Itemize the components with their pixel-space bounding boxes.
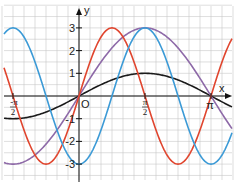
x-axis-arrow-icon [225, 93, 232, 99]
x-tick-denominator: 2 [143, 107, 148, 117]
x-tick-label: π [206, 99, 214, 111]
x-axis-label: x [219, 82, 225, 94]
y-tick-label: -1 [65, 113, 75, 125]
y-tick-label: -2 [65, 135, 75, 147]
x-tick-numerator: π [143, 97, 148, 107]
y-axis-arrow-icon [76, 8, 82, 15]
function-graph: 321-1-2-3yxO-π2π2π [0, 0, 236, 184]
y-tick-label: 1 [69, 67, 75, 79]
y-tick-label: 3 [69, 22, 75, 34]
origin-label: O [81, 98, 90, 110]
y-tick-label: -3 [65, 158, 75, 170]
x-tick-numerator: -π [10, 97, 18, 107]
y-tick-label: 2 [69, 45, 75, 57]
plot-canvas: 321-1-2-3yxO-π2π2π [0, 0, 236, 184]
x-tick-denominator: 2 [11, 107, 16, 117]
y-axis-label: y [84, 4, 90, 16]
